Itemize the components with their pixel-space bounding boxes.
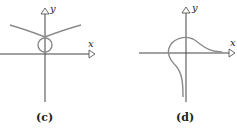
plot-d (139, 7, 235, 102)
plot-c-y-label: y (50, 3, 56, 14)
plot-d-curve (169, 37, 222, 97)
plot-c-x-label: x (88, 38, 94, 49)
plot-c-x-arrow-icon (89, 50, 95, 58)
plot-c-y-arrow-icon (41, 8, 49, 14)
plot-d-x-label: x (230, 37, 236, 48)
plot-d-x-arrow-icon (229, 49, 235, 57)
plot-d-y-label: y (192, 2, 198, 13)
plot-c-caption: (c) (36, 111, 53, 124)
plot-d-y-arrow-icon (182, 7, 190, 13)
plot-d-caption: (d) (176, 111, 194, 124)
plot-c (0, 8, 95, 102)
figure-canvas (0, 0, 237, 129)
